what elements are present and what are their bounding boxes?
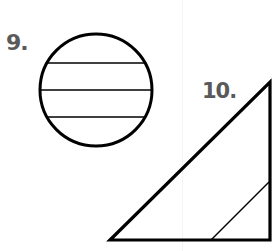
figure-9-circle: [30, 34, 160, 146]
triangle-inner-line: [211, 182, 269, 240]
circle-chords: [30, 63, 160, 117]
triangle-outline: [110, 82, 270, 240]
figure-10-triangle: [110, 82, 270, 240]
figures-canvas: [0, 0, 275, 251]
